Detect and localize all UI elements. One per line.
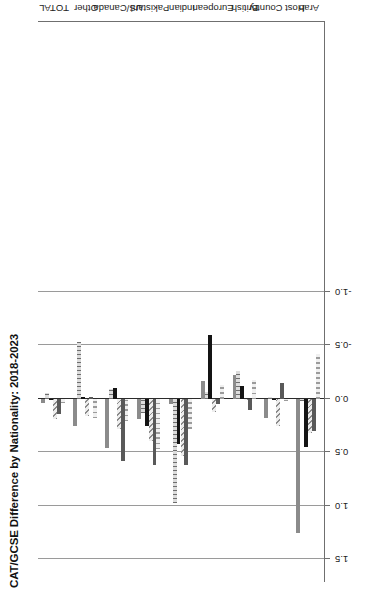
category-label: European [193, 3, 234, 14]
x-tick [325, 505, 330, 506]
category-axis-line [38, 21, 325, 22]
x-tick [325, 452, 330, 453]
x-tick-label: 0.5 [335, 447, 348, 458]
category-label: Pakistani [130, 3, 169, 14]
category-label: TOTAL [39, 3, 69, 14]
category-label: Indian [169, 3, 195, 14]
x-tick [325, 559, 330, 560]
x-tick [325, 398, 330, 399]
chart-canvas: CAT/GCSE Difference by Nationality: 2018… [0, 0, 367, 606]
x-tick [325, 345, 330, 346]
category-label: Host Country [249, 3, 304, 14]
x-tick [325, 291, 330, 292]
category-label: Arab [299, 3, 319, 14]
chart-title: CAT/GCSE Difference by Nationality: 2018… [8, 334, 20, 588]
chart-figure: CAT/GCSE Difference by Nationality: 2018… [0, 0, 367, 606]
x-tick-label: -1.0 [335, 287, 351, 298]
plot-area [38, 22, 325, 582]
x-axis-ticks [38, 22, 325, 582]
x-tick-label: 0.0 [335, 394, 348, 405]
x-tick-label: 1.0 [335, 501, 348, 512]
x-tick-label: 1.5 [335, 554, 348, 565]
x-tick-label: -0.5 [335, 340, 351, 351]
